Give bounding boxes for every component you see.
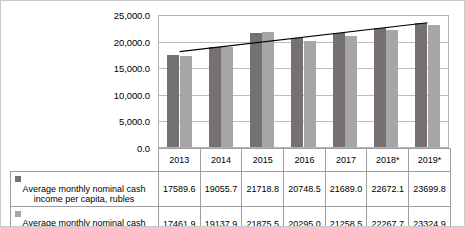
data-cell: 21258.5 — [325, 206, 367, 227]
data-cell: 23699.8 — [409, 172, 451, 207]
y-axis-tick-label: 5,000.0 — [119, 116, 150, 127]
legend-entry-expenditures: Average monthly nominal cashexpenditures… — [11, 206, 159, 227]
data-cell: 19137.9 — [200, 206, 242, 227]
data-cell: 17461.9 — [159, 206, 201, 227]
data-cell: 21718.8 — [242, 172, 284, 207]
data-cell: 19055.7 — [200, 172, 242, 207]
legend-label-line1: Average monthly nominal cash — [23, 184, 146, 194]
data-cell: 21689.0 — [325, 172, 367, 207]
y-axis-tick-label: 10,000.0 — [114, 89, 150, 100]
trendline — [159, 16, 448, 147]
legend-label-line1: Average monthly nominal cash — [23, 218, 146, 227]
data-cell: 20295.0 — [284, 206, 326, 227]
table-row: Average monthly nominal cashincome per c… — [11, 172, 451, 207]
data-cell: 23324.9 — [409, 206, 451, 227]
plot-area — [158, 15, 449, 148]
column-header-year: 2014 — [200, 149, 242, 172]
legend-swatch-icon — [15, 211, 21, 217]
table-row-header: 2013 2014 2015 2016 2017 2018* 2019* — [11, 149, 451, 172]
column-header-year: 2016 — [284, 149, 326, 172]
column-header-year: 2018* — [367, 149, 409, 172]
data-cell: 22672.1 — [367, 172, 409, 207]
legend-swatch-icon — [15, 176, 21, 182]
data-cell: 21875.5 — [242, 206, 284, 227]
column-header-year: 2019* — [409, 149, 451, 172]
column-header-year: 2013 — [159, 149, 201, 172]
table-corner-blank — [11, 149, 159, 172]
data-table: 2013 2014 2015 2016 2017 2018* 2019* Ave… — [10, 148, 451, 227]
data-cell: 17589.6 — [159, 172, 201, 207]
legend-label-line2: income per capita, rubles — [34, 194, 135, 204]
chart-container: 0.0 5,000.0 10,000.0 15,000.0 20,000.0 2… — [0, 0, 465, 227]
y-axis: 0.0 5,000.0 10,000.0 15,000.0 20,000.0 2… — [96, 15, 154, 148]
table-row: Average monthly nominal cashexpenditures… — [11, 206, 451, 227]
legend-entry-income: Average monthly nominal cashincome per c… — [11, 172, 159, 207]
data-cell: 22267.7 — [367, 206, 409, 227]
y-axis-tick-label: 15,000.0 — [114, 63, 150, 74]
y-axis-tick-label: 25,000.0 — [114, 10, 150, 21]
column-header-year: 2015 — [242, 149, 284, 172]
column-header-year: 2017 — [325, 149, 367, 172]
data-cell: 20748.5 — [284, 172, 326, 207]
y-axis-tick-label: 20,000.0 — [114, 36, 150, 47]
